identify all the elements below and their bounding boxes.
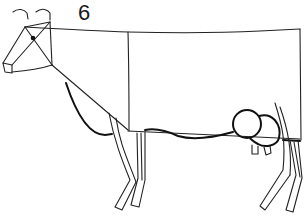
horns	[13, 9, 50, 20]
drawing-canvas: 6	[0, 0, 305, 217]
cow-drawing	[0, 0, 305, 217]
eye-icon	[31, 36, 36, 41]
udder	[233, 110, 280, 155]
front-legs	[109, 113, 145, 210]
head	[3, 22, 52, 73]
hind-legs	[260, 103, 302, 212]
underline	[66, 83, 300, 141]
